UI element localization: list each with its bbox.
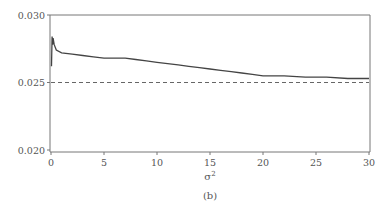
x-tick-label: 0: [48, 157, 54, 168]
y-axis-ticks: 0.0200.0250.030: [18, 10, 50, 156]
x-tick-label: 10: [151, 157, 163, 168]
y-tick-label: 0.025: [18, 77, 45, 88]
x-tick-label: 5: [101, 157, 107, 168]
data-series: [51, 37, 369, 83]
x-axis-label: σ2: [204, 170, 215, 182]
panel-label: (b): [203, 190, 217, 201]
data-line: [52, 37, 370, 79]
x-tick-label: 25: [310, 157, 322, 168]
y-tick-label: 0.020: [18, 145, 45, 156]
x-tick-label: 15: [204, 157, 216, 168]
plot-frame: [50, 15, 370, 152]
y-tick-label: 0.030: [18, 10, 45, 21]
x-tick-label: 20: [257, 157, 269, 168]
x-axis-ticks: 051015202530: [48, 152, 375, 168]
chart-figure: 0.0200.0250.030 051015202530 σ2 (b): [0, 0, 390, 213]
x-tick-label: 30: [363, 157, 375, 168]
